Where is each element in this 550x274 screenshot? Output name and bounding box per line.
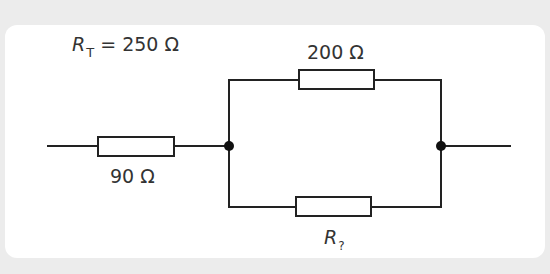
total-resistance-subscript: T [86, 45, 94, 60]
resistor-90-label: 90 Ω [110, 167, 155, 186]
total-resistance-equals: = [94, 33, 122, 55]
resistor-unknown [296, 197, 371, 216]
resistor-200-label: 200 Ω [307, 43, 364, 62]
total-resistance-symbol: R [72, 33, 85, 55]
junction-dot-left [224, 141, 234, 151]
resistor-unknown-label: R? [324, 228, 345, 247]
total-resistance-value: 250 Ω [122, 33, 179, 55]
resistor-90-ohm [98, 137, 174, 156]
resistor-200-ohm [299, 70, 374, 89]
resistor-unknown-subscript: ? [338, 239, 344, 253]
total-resistance-label: RT = 250 Ω [72, 35, 179, 54]
resistor-unknown-symbol: R [324, 226, 337, 248]
junction-dot-right [436, 141, 446, 151]
